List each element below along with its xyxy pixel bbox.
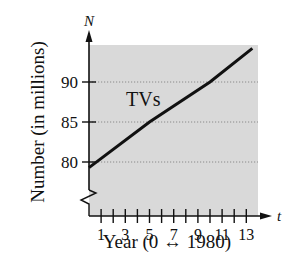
- x-axis-var: t: [277, 208, 282, 224]
- x-tick-label: 13: [238, 226, 254, 243]
- x-axis-arrow-icon: [260, 213, 272, 220]
- y-tick-label: 90: [61, 73, 78, 92]
- y-axis-arrow-icon: [86, 30, 93, 42]
- series-label: TVs: [126, 88, 161, 110]
- y-axis-label: Number (in millions): [27, 41, 49, 202]
- y-axis-var: N: [83, 13, 95, 29]
- y-tick-label: 80: [61, 153, 78, 172]
- tv-line-chart: N 808590 t 135791113 TVs Year (0 ↔ 1980)…: [0, 0, 293, 278]
- plot-area: [89, 45, 258, 216]
- y-tick-label: 85: [61, 113, 78, 132]
- x-axis-label: Year (0 ↔ 1980): [103, 231, 231, 253]
